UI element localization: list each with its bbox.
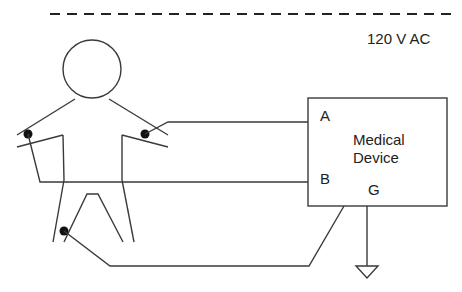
lead-chassis xyxy=(64,206,344,266)
device-name-line2: Device xyxy=(353,149,405,167)
terminal-g-label: G xyxy=(368,182,380,197)
ground-symbol-icon xyxy=(356,266,378,278)
terminal-a-label: A xyxy=(320,108,330,123)
device-name: Medical Device xyxy=(353,131,405,167)
supply-label: 120 V AC xyxy=(367,31,430,46)
device-name-line1: Medical xyxy=(353,131,405,149)
lead-a xyxy=(145,122,308,134)
head xyxy=(63,40,121,98)
terminal-b-label: B xyxy=(320,171,330,186)
patient-figure xyxy=(17,40,168,242)
lead-b xyxy=(28,134,308,182)
